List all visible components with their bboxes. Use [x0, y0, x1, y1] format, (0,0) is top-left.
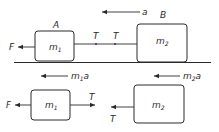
force-label: F — [9, 42, 15, 52]
block-b-name: B — [160, 10, 166, 20]
rope-point-left — [95, 43, 97, 45]
bottom-system: m1a m2a m1 F T m2 T — [6, 71, 201, 124]
block-a-name: A — [52, 20, 59, 30]
tension-left-label: T — [93, 31, 100, 41]
rope-point-right — [114, 43, 116, 45]
acceleration-label: a — [142, 7, 148, 17]
fbd-tension-1-label: T — [89, 92, 96, 102]
tension-right-label: T — [113, 31, 120, 41]
free-body-diagram: a A m1 F T T B m2 m1a m2a m1 F — [0, 0, 219, 132]
m1-accel-label: m1a — [71, 71, 89, 82]
top-system: a A m1 F T T B m2 — [9, 7, 211, 63]
fbd-tension-2-label: T — [110, 114, 117, 124]
m2-accel-label: m2a — [183, 71, 201, 82]
fbd-force-label: F — [6, 100, 11, 110]
